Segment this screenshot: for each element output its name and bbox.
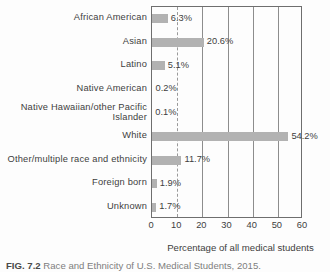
- x-tick-60: 60: [297, 220, 307, 230]
- bar: [152, 38, 204, 47]
- figure-race-ethnicity-medical-students: African AmericanAsianLatinoNative Americ…: [0, 0, 330, 272]
- bar: [152, 61, 165, 70]
- x-tick-50: 50: [272, 220, 282, 230]
- category-label: Foreign born: [0, 177, 147, 188]
- plot-area: [151, 6, 302, 218]
- bar-series: [152, 7, 301, 217]
- figure-caption: FIG. 7.2 Race and Ethnicity of U.S. Medi…: [6, 260, 330, 271]
- x-tick-0: 0: [148, 220, 153, 230]
- x-tick-20: 20: [196, 220, 206, 230]
- category-label: Native American: [0, 83, 147, 94]
- figure-caption-text: Race and Ethnicity of U.S. Medical Stude…: [43, 260, 261, 271]
- category-label: African American: [0, 12, 147, 23]
- category-label: Other/multiple race and ethnicity: [0, 154, 147, 165]
- category-label: Latino: [0, 59, 147, 70]
- x-tick-30: 30: [221, 220, 231, 230]
- category-label: Unknown: [0, 201, 147, 212]
- category-label: White: [0, 130, 147, 141]
- bar-chart: African AmericanAsianLatinoNative Americ…: [0, 6, 330, 228]
- bar: [152, 203, 156, 212]
- category-axis-labels: African AmericanAsianLatinoNative Americ…: [0, 6, 150, 218]
- category-label: Asian: [0, 36, 147, 47]
- bar: [152, 132, 288, 141]
- category-label: Native Hawaiian/other Pacific Islander: [0, 102, 147, 123]
- x-axis-title: Percentage of all medical students: [151, 242, 330, 253]
- bar: [152, 156, 181, 165]
- x-axis-tick-labels: 0102030405060: [151, 218, 302, 232]
- bar: [152, 179, 157, 188]
- x-tick-10: 10: [171, 220, 181, 230]
- figure-caption-label: FIG. 7.2: [6, 260, 41, 271]
- bar: [152, 14, 168, 23]
- x-tick-40: 40: [246, 220, 256, 230]
